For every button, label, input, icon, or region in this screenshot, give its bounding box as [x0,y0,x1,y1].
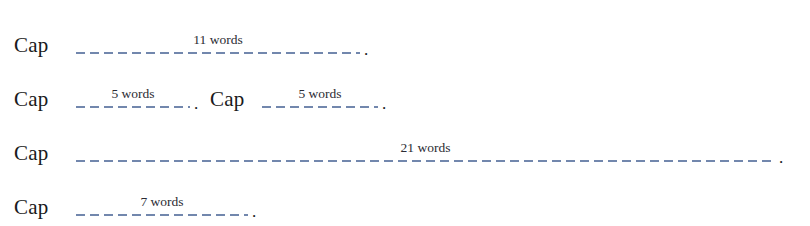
masked-blank: 5 words [262,76,378,116]
dashed-blank-line [76,52,360,54]
caption-segment: Cap21 words. [0,124,810,170]
cap-token-label: Cap [14,35,48,56]
masked-blank: 7 words [76,184,248,224]
dashed-blank-line [262,106,378,108]
cap-token-label: Cap [14,143,48,164]
word-count-label: 7 words [140,195,183,209]
cap-token-label: Cap [14,197,48,218]
sentence-period: . [364,41,368,58]
caption-blanks-figure: Cap11 words.Cap5 words.Cap5 words.Cap21 … [0,0,810,226]
caption-segment: Cap11 words. [0,16,810,62]
word-count-label: 21 words [401,141,451,155]
dashed-blank-line [76,160,775,162]
masked-blank: 21 words [76,130,775,170]
word-count-label: 11 words [193,33,242,47]
sentence-period: . [252,203,256,220]
sentence-period: . [382,95,386,112]
dashed-blank-line [76,214,248,216]
masked-blank: 11 words [76,22,360,62]
sentence-period: . [779,149,783,166]
caption-segment: Cap5 words. [0,70,810,116]
caption-segment: Cap7 words. [0,178,810,224]
cap-token-label: Cap [210,89,244,110]
word-count-label: 5 words [298,87,341,101]
